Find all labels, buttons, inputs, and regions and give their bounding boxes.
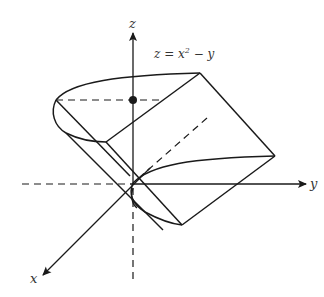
y-axis-label: y xyxy=(310,177,317,190)
inner-curve-edge xyxy=(66,133,106,142)
front-top-edge xyxy=(106,73,200,142)
surface-equation: z = x2 − y xyxy=(154,47,214,60)
x-axis-label: x xyxy=(30,272,37,285)
equation-rhs: − y xyxy=(190,47,214,61)
bottom-right-edge xyxy=(182,156,275,225)
z-intercept-point xyxy=(129,96,137,104)
left-diagonal-edge-1 xyxy=(56,100,130,176)
top-parabola-edge xyxy=(56,73,200,100)
left-diagonal-edge-2 xyxy=(66,133,163,230)
right-upper-curve xyxy=(133,156,275,183)
hidden-edge-dashed xyxy=(140,118,207,177)
equation-lhs: z = x xyxy=(154,47,185,61)
diagram-svg xyxy=(0,0,324,297)
left-parabola-edge xyxy=(53,100,66,133)
right-lower-curve xyxy=(131,183,182,225)
surface-diagram: z y x z = x2 − y xyxy=(0,0,324,297)
z-axis-label: z xyxy=(129,17,136,30)
top-right-edge xyxy=(200,73,275,156)
